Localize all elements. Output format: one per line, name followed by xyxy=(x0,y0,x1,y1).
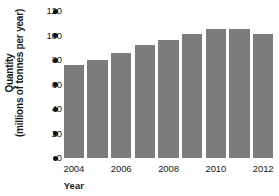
bar-slot xyxy=(87,11,107,158)
bar-slot xyxy=(229,11,249,158)
bar[interactable] xyxy=(158,40,178,158)
bar[interactable] xyxy=(135,45,155,158)
bar-slot xyxy=(182,11,202,158)
bar-slot xyxy=(253,11,273,158)
x-axis-tick-label: 2006 xyxy=(99,163,143,174)
plot-area xyxy=(62,11,275,158)
y-axis-tick-dot-icon xyxy=(53,33,58,38)
bar-slot xyxy=(111,11,131,158)
y-axis-title-line-2: (millions of tonnes per year) xyxy=(15,9,25,137)
bar-slot xyxy=(64,11,84,158)
bar[interactable] xyxy=(182,34,202,158)
bar[interactable] xyxy=(64,65,84,158)
y-axis-tick-dot-icon xyxy=(53,107,58,112)
y-axis-tick-dot-icon xyxy=(53,131,58,136)
x-axis-tick-label: 2004 xyxy=(52,163,96,174)
bar-slot xyxy=(206,11,226,158)
y-axis-tick-dot-icon xyxy=(53,156,58,161)
x-axis-tick-label: 2008 xyxy=(147,163,191,174)
bar[interactable] xyxy=(229,29,249,158)
bar-slot xyxy=(158,11,178,158)
x-axis-tick-label: 2010 xyxy=(194,163,238,174)
bar[interactable] xyxy=(206,29,226,158)
bar-slot xyxy=(135,11,155,158)
bar[interactable] xyxy=(87,60,107,158)
bar-chart: Quantity (millions of tonnes per year) Y… xyxy=(0,0,279,196)
y-axis-tick-dot-icon xyxy=(53,82,58,87)
y-axis-tick-dot-icon xyxy=(53,9,58,14)
bar[interactable] xyxy=(111,53,131,158)
y-axis-title: Quantity (millions of tonnes per year) xyxy=(0,0,32,148)
x-axis-title: Year xyxy=(52,180,96,191)
x-axis-tick-label: 2012 xyxy=(241,163,279,174)
y-axis-tick-dot-icon xyxy=(53,58,58,63)
bar[interactable] xyxy=(253,34,273,158)
